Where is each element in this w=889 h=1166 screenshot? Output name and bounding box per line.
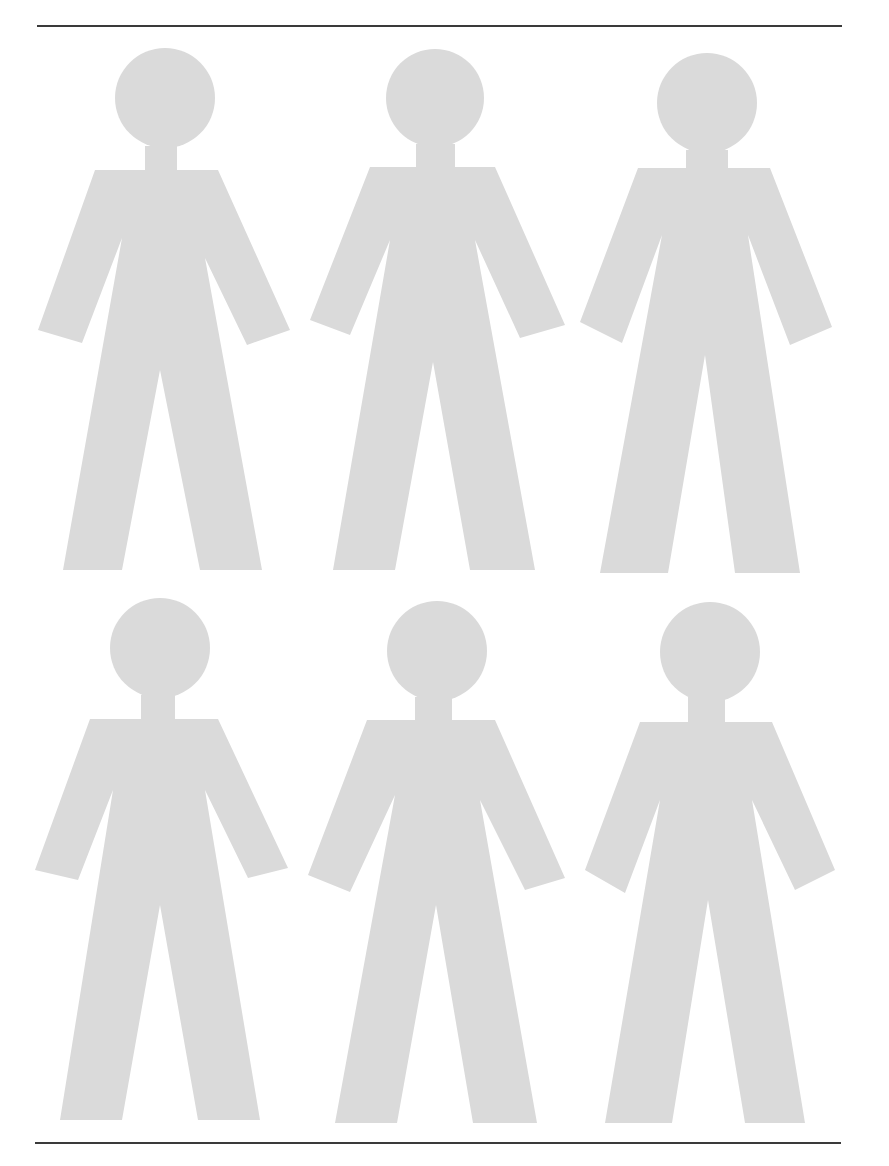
person-figure: [308, 601, 565, 1123]
person-figure: [35, 598, 288, 1120]
figure-head: [386, 49, 484, 147]
document-page: [0, 0, 889, 1166]
figures-grid: [35, 48, 835, 1123]
figure-head: [387, 601, 487, 701]
figure-body: [580, 150, 832, 573]
figure-head: [115, 48, 215, 148]
person-figure: [585, 602, 835, 1123]
person-figure: [38, 48, 290, 570]
figure-body: [310, 144, 565, 570]
figure-body: [585, 697, 835, 1123]
person-figure: [580, 53, 832, 573]
figure-body: [38, 146, 290, 570]
person-figure: [310, 49, 565, 570]
figure-head: [660, 602, 760, 702]
figure-body: [35, 695, 288, 1120]
figure-sheet: [0, 0, 889, 1166]
figure-body: [308, 697, 565, 1123]
figure-head: [110, 598, 210, 698]
figure-head: [657, 53, 757, 153]
